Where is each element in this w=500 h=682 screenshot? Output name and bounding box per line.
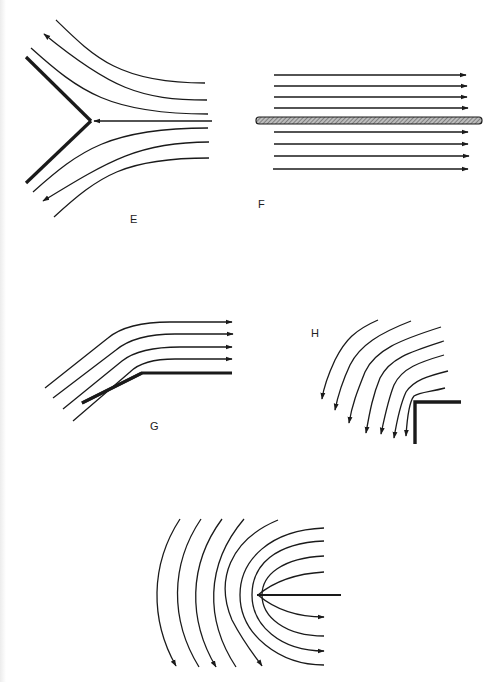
panel-leading-edge: [157, 519, 341, 667]
panel-e: [26, 20, 212, 217]
flat-plate: [256, 117, 482, 124]
streamline-1: [322, 320, 378, 399]
corner-wall: [82, 373, 232, 403]
streamline-upper-1: [56, 20, 205, 83]
l-corner-wall: [415, 402, 461, 444]
streamline-4: [73, 359, 232, 421]
streamline-6: [394, 371, 448, 438]
wedge-wall-lower: [26, 121, 91, 183]
streamline-1: [45, 322, 232, 388]
streamline-lower-1: [33, 128, 208, 192]
streamline-upper-2: [44, 34, 207, 100]
streamline-7: [406, 388, 445, 436]
arc-3: [196, 519, 222, 667]
flow-diagram-figure: E F G H: [0, 0, 500, 682]
streamline-lower-3: [54, 158, 209, 217]
wedge-wall-upper: [26, 57, 91, 121]
panel-h: [322, 320, 461, 444]
streamline-3: [349, 327, 441, 423]
streamline-upper-3: [31, 48, 208, 114]
panel-g: [45, 322, 233, 421]
panel-label-g: G: [150, 420, 159, 432]
arc-1: [157, 519, 180, 666]
panel-label-f: F: [258, 198, 265, 210]
arc-2: [177, 519, 201, 667]
panel-label-e: E: [130, 213, 137, 225]
streamline-2: [53, 334, 233, 398]
streamline-lower-2: [43, 142, 209, 201]
panel-label-h: H: [311, 327, 319, 339]
streamline-5: [381, 355, 444, 434]
